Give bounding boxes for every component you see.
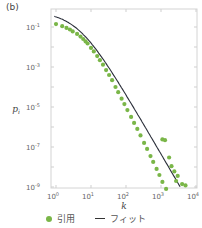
data-point <box>101 63 105 67</box>
data-point <box>110 78 114 82</box>
data-point <box>172 169 176 173</box>
plot-frame <box>51 9 197 188</box>
data-point <box>54 22 58 26</box>
data-point <box>89 46 93 50</box>
data-point <box>151 160 155 164</box>
data-point <box>163 138 167 142</box>
data-point <box>98 58 102 62</box>
data-point <box>113 85 117 89</box>
data-point <box>164 187 168 191</box>
svg-text:10-9: 10-9 <box>26 182 40 192</box>
data-point <box>160 180 164 184</box>
data-point <box>92 49 96 53</box>
data-point <box>95 54 99 58</box>
data-point <box>167 155 171 159</box>
data-point <box>86 41 90 45</box>
green-dot-icon <box>46 216 52 222</box>
svg-text:100: 100 <box>47 191 59 201</box>
data-point <box>120 97 124 101</box>
fit-line <box>54 16 180 186</box>
y-axis-label: pi <box>12 104 20 115</box>
data-point <box>71 29 75 33</box>
legend-item-data: 引用 <box>46 212 75 225</box>
x-axis-label: k <box>121 201 126 211</box>
legend-data-label: 引用 <box>57 212 75 225</box>
data-point <box>135 127 139 131</box>
data-point <box>116 90 120 94</box>
legend: 引用 フィット <box>46 212 166 225</box>
data-point <box>148 154 152 158</box>
data-point <box>125 108 129 112</box>
line-dash-icon <box>95 218 105 220</box>
data-point <box>142 141 146 145</box>
data-point <box>155 167 159 171</box>
data-point <box>122 102 126 106</box>
data-point <box>107 73 111 77</box>
svg-text:101: 101 <box>82 191 94 201</box>
svg-text:10-7: 10-7 <box>26 142 40 152</box>
data-point <box>157 173 161 177</box>
data-point <box>104 68 108 72</box>
chart: 10010110210310410-110-310-510-710-9 k pi <box>0 0 202 228</box>
axis-ticks <box>51 9 197 188</box>
data-point <box>138 133 142 137</box>
svg-text:10-1: 10-1 <box>26 22 40 32</box>
data-point <box>60 24 64 28</box>
legend-item-fit: フィット <box>95 212 146 225</box>
data-point <box>176 174 180 178</box>
data-point <box>132 121 136 125</box>
svg-text:10-3: 10-3 <box>26 62 40 72</box>
data-point <box>145 147 149 151</box>
svg-text:104: 104 <box>187 191 199 201</box>
svg-text:102: 102 <box>117 191 129 201</box>
data-point <box>129 115 133 119</box>
legend-fit-label: フィット <box>110 212 146 225</box>
data-point <box>183 183 187 187</box>
svg-text:10-5: 10-5 <box>26 102 40 112</box>
data-point <box>169 164 173 168</box>
data-point <box>174 179 178 183</box>
svg-text:103: 103 <box>152 191 164 201</box>
data-point <box>75 32 79 36</box>
